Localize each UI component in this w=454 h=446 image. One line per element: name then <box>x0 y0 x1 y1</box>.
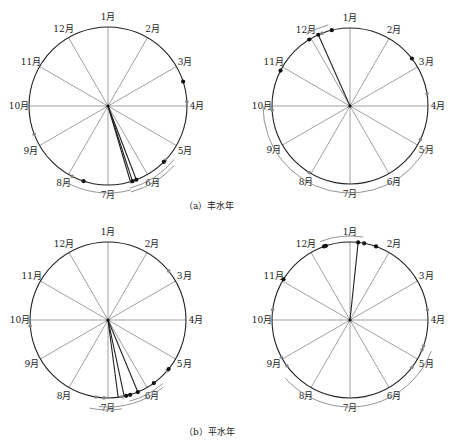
data-point-black <box>167 367 171 371</box>
month-label: 6月 <box>387 391 402 401</box>
centroid-vector <box>318 35 350 106</box>
month-label: 6月 <box>145 391 160 401</box>
center-point <box>106 318 109 321</box>
data-point-gray <box>410 366 414 370</box>
polar-panel-b-right: 1月2月3月4月5月6月7月8月9月10月11月12月 <box>252 227 446 413</box>
data-point-black <box>136 390 140 394</box>
month-label: 2月 <box>145 239 160 249</box>
month-label: 7月 <box>101 190 116 200</box>
month-label: 3月 <box>419 57 434 67</box>
month-label: 8月 <box>57 391 72 401</box>
month-label: 11月 <box>264 271 284 281</box>
month-label: 5月 <box>419 359 434 369</box>
month-label: 10月 <box>252 315 272 325</box>
month-label: 2月 <box>387 25 402 35</box>
center-point <box>106 104 109 107</box>
month-label: 5月 <box>178 146 193 156</box>
month-label: 12月 <box>296 239 316 249</box>
data-point-black <box>181 79 185 83</box>
month-label: 3月 <box>419 271 434 281</box>
month-label: 6月 <box>387 177 402 187</box>
month-label: 10月 <box>252 101 272 111</box>
data-point-black <box>324 244 328 248</box>
data-point-black <box>81 179 85 183</box>
data-point-gray <box>270 108 274 112</box>
month-label: 1月 <box>101 12 116 22</box>
data-point-black <box>374 244 378 248</box>
data-point-black <box>130 179 134 183</box>
month-label: 8月 <box>299 391 314 401</box>
data-point-gray <box>185 100 189 104</box>
data-point-gray <box>419 138 423 142</box>
period-arc <box>65 181 131 193</box>
month-label: 1月 <box>101 227 116 237</box>
month-label: 8月 <box>299 177 314 187</box>
center-point <box>348 104 351 107</box>
data-point-black <box>152 381 156 385</box>
data-point-gray <box>422 344 426 348</box>
month-label: 2月 <box>145 24 160 34</box>
data-point-gray <box>420 348 424 352</box>
data-point-gray <box>425 92 429 96</box>
month-label: 9月 <box>24 359 39 369</box>
month-label: 9月 <box>266 145 281 155</box>
data-point-gray <box>167 269 171 273</box>
month-label: 2月 <box>387 239 402 249</box>
data-point-black <box>134 178 138 182</box>
month-label: 7月 <box>343 189 358 199</box>
data-point-gray <box>102 396 106 400</box>
month-label: 4月 <box>431 315 446 325</box>
data-point-black <box>307 37 311 41</box>
data-point-black <box>281 277 285 281</box>
polar-panel-a-right: 1月2月3月4月5月6月7月8月9月10月11月12月 <box>252 13 446 199</box>
data-point-black <box>410 56 414 60</box>
data-point-gray <box>320 31 324 35</box>
month-label: 8月 <box>56 178 71 188</box>
month-label: 11月 <box>264 57 284 67</box>
data-point-gray <box>307 171 311 175</box>
center-point <box>348 318 351 321</box>
data-point-black <box>362 241 366 245</box>
month-label: 5月 <box>419 145 434 155</box>
centroid-vector <box>108 106 136 180</box>
data-point-gray <box>32 133 36 137</box>
data-point-black <box>316 33 320 37</box>
data-point-black <box>278 68 282 72</box>
month-label: 4月 <box>189 315 204 325</box>
polar-panel-b-left: 1月2月3月4月5月6月7月8月9月10月11月12月 <box>10 227 204 413</box>
month-label: 11月 <box>21 57 41 67</box>
data-point-gray <box>426 308 430 312</box>
data-point-gray <box>271 308 275 312</box>
polar-panel-a-left: 1月2月3月4月5月6月7月8月9月10月11月12月 <box>9 12 205 200</box>
data-point-black <box>124 394 128 398</box>
month-label: 12月 <box>54 239 74 249</box>
data-point-gray <box>280 355 284 359</box>
month-label: 12月 <box>296 25 316 35</box>
period-arc <box>263 106 428 193</box>
data-point-black <box>128 393 132 397</box>
seasonality-polar-diagram: 1月2月3月4月5月6月7月8月9月10月11月12月1月2月3月4月5月6月7… <box>0 0 454 446</box>
data-point-black <box>330 28 334 32</box>
data-point-gray <box>94 395 98 399</box>
data-point-black <box>356 240 360 244</box>
month-label: 4月 <box>431 101 446 111</box>
month-label: 4月 <box>190 101 205 111</box>
data-point-gray <box>120 395 124 399</box>
data-point-black <box>162 160 166 164</box>
month-label: 1月 <box>343 13 358 23</box>
month-label: 3月 <box>177 271 192 281</box>
data-point-gray <box>28 324 32 328</box>
month-label: 10月 <box>10 315 30 325</box>
month-label: 10月 <box>9 101 29 111</box>
data-point-gray <box>285 364 289 368</box>
month-label: 11月 <box>22 271 42 281</box>
month-label: 9月 <box>24 146 39 156</box>
month-label: 7月 <box>101 403 116 413</box>
month-label: 5月 <box>177 359 192 369</box>
month-label: 7月 <box>343 403 358 413</box>
month-label: 1月 <box>343 227 358 237</box>
data-point-gray <box>70 175 74 179</box>
month-label: 9月 <box>266 359 281 369</box>
month-label: 3月 <box>178 57 193 67</box>
month-label: 12月 <box>53 24 73 34</box>
